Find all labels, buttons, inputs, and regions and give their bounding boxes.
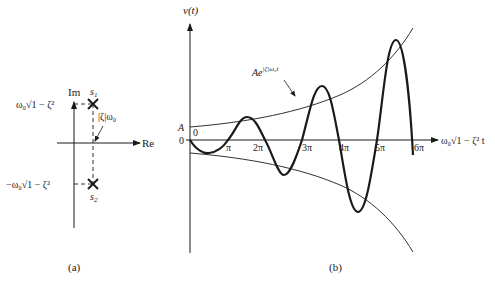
panel-a-pole-plot: Im Re s1 s2 ω₀√1 − ζ² −ω₀√1 − ζ² |ζ|ω₀ (… (6, 86, 154, 274)
x-tick-2pi: 2π (253, 142, 263, 153)
panel-b-caption: (b) (329, 261, 342, 274)
upper-imag-value-label: ω₀√1 − ζ² (16, 99, 54, 111)
x-tick-pi: π (226, 142, 231, 153)
y-tick-A: A (177, 122, 185, 133)
real-axis-label: Re (142, 137, 154, 149)
upper-envelope (190, 28, 413, 127)
envelope-label: Ae|ζ|ω₀t (251, 65, 280, 78)
x-tick-3pi: 3π (302, 142, 312, 153)
origin-label: 0 (193, 127, 198, 138)
v-axis-label: v(t) (183, 4, 199, 17)
x-tick-6pi: 6π (414, 142, 424, 153)
real-part-label: |ζ|ω₀ (98, 111, 117, 123)
t-axis-label: ω₀√1 − ζ² t (441, 135, 485, 147)
imag-axis-label: Im (68, 86, 81, 98)
response-curve (190, 40, 413, 212)
pole-s1-label: s1 (90, 86, 97, 99)
panel-b-time-response: v(t) ω₀√1 − ζ² t A 0 0 π 2π 3π 4π 5π 6π … (177, 4, 485, 274)
real-part-pointer (95, 126, 103, 141)
figure-canvas: Im Re s1 s2 ω₀√1 − ζ² −ω₀√1 − ζ² |ζ|ω₀ (… (0, 0, 495, 295)
panel-a-caption: (a) (68, 261, 81, 274)
lower-envelope (190, 153, 413, 252)
y-tick-0: 0 (179, 135, 184, 146)
pole-s2-label: s2 (90, 191, 98, 204)
lower-imag-value-label: −ω₀√1 − ζ² (6, 179, 50, 191)
envelope-pointer (284, 80, 295, 96)
